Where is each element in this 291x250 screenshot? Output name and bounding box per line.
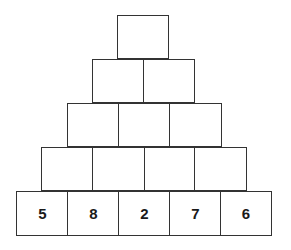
pyramid-cell-r3-c1[interactable]	[92, 147, 145, 191]
pyramid-cell-r4-c4[interactable]: 6	[220, 191, 272, 236]
pyramid-cell-r1-c0[interactable]	[92, 59, 145, 103]
pyramid-cell-r0-c0[interactable]	[117, 15, 169, 59]
pyramid-cell-r4-c1[interactable]: 8	[67, 191, 120, 236]
pyramid-cell-r4-c3[interactable]: 7	[169, 191, 222, 236]
pyramid-cell-r2-c2[interactable]	[169, 103, 222, 147]
pyramid-cell-r2-c0[interactable]	[67, 103, 120, 147]
pyramid-cell-r3-c3[interactable]	[194, 147, 247, 191]
pyramid-cell-r4-c0[interactable]: 5	[16, 191, 69, 236]
pyramid-cell-r4-c2[interactable]: 2	[118, 191, 171, 236]
pyramid-cell-r3-c2[interactable]	[144, 147, 196, 191]
pyramid-cell-r3-c0[interactable]	[41, 147, 94, 191]
pyramid-cell-r1-c1[interactable]	[143, 59, 195, 103]
pyramid-cell-r2-c1[interactable]	[118, 103, 171, 147]
